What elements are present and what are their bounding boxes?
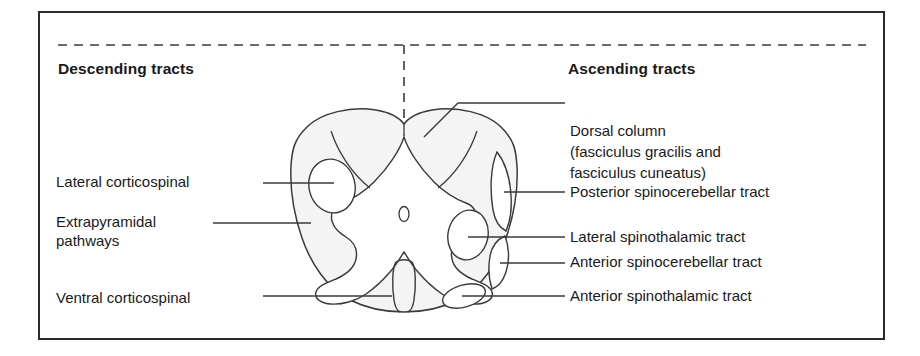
label-extrapyramidal-line1: Extrapyramidal [56, 213, 156, 230]
label-extrapyramidal-line2: pathways [56, 231, 156, 250]
label-posterior-spinocerebellar-tract: Posterior spinocerebellar tract [570, 182, 769, 201]
label-dorsal-column-line3: fasciculus cuneatus) [570, 162, 721, 183]
label-extrapyramidal-pathways: Extrapyramidal pathways [56, 212, 156, 250]
central-canal [399, 207, 409, 222]
label-dorsal-column-line2: (fasciculus gracilis and [570, 141, 721, 162]
label-dorsal-column-line1: Dorsal column [570, 120, 721, 141]
descending-tracts-heading: Descending tracts [58, 60, 194, 78]
label-lateral-corticospinal: Lateral corticospinal [56, 172, 189, 191]
label-ventral-corticospinal: Ventral corticospinal [56, 288, 190, 307]
spinal-cord-tracts-figure: Descending tracts Ascending tracts Later… [0, 0, 920, 356]
label-anterior-spinocerebellar-tract: Anterior spinocerebellar tract [570, 252, 762, 271]
label-anterior-spinothalamic-tract: Anterior spinothalamic tract [570, 286, 752, 305]
ascending-tracts-heading: Ascending tracts [568, 60, 695, 78]
label-lateral-spinothalamic-tract: Lateral spinothalamic tract [570, 227, 745, 246]
label-dorsal-column: Dorsal column (fasciculus gracilis and f… [570, 120, 721, 183]
